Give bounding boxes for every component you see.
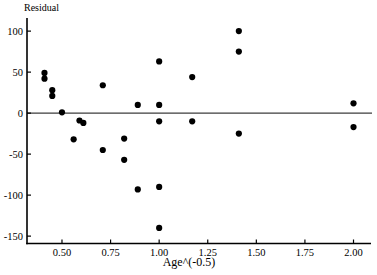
data-point: [80, 120, 86, 126]
data-point: [135, 102, 141, 108]
scatter-plot: 0.500.751.001.251.501.752.00100500-50-10…: [0, 0, 377, 275]
data-point: [236, 28, 242, 34]
y-tick-label: -50: [9, 149, 23, 160]
data-point: [41, 76, 47, 82]
y-tick-label: 0: [18, 108, 23, 119]
residual-scatter-chart: Residual 0.500.751.001.251.501.752.00100…: [0, 0, 377, 275]
data-point: [156, 118, 162, 124]
data-point: [189, 74, 195, 80]
data-point: [156, 102, 162, 108]
data-point: [49, 87, 55, 93]
data-point: [236, 49, 242, 55]
data-point: [189, 118, 195, 124]
data-point: [121, 135, 127, 141]
y-tick-label: -150: [4, 231, 23, 242]
y-tick-label: -100: [4, 190, 23, 201]
data-point: [49, 93, 55, 99]
data-point: [59, 109, 65, 115]
x-axis-title: Age^(-0.5): [0, 255, 377, 270]
data-point: [350, 124, 356, 130]
data-point: [156, 225, 162, 231]
data-point: [350, 100, 356, 106]
data-point: [41, 70, 47, 76]
data-point: [156, 58, 162, 64]
data-point: [71, 136, 77, 142]
data-point: [121, 157, 127, 163]
y-tick-label: 100: [7, 26, 23, 37]
data-point: [100, 82, 106, 88]
data-point: [236, 131, 242, 137]
y-tick-label: 50: [13, 67, 24, 78]
data-point: [135, 186, 141, 192]
data-point: [156, 184, 162, 190]
data-point: [100, 147, 106, 153]
